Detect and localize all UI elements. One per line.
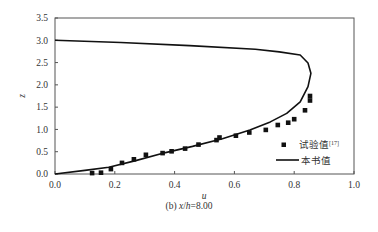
x-tick-label: 0.2 [109,180,121,190]
data-point-marker [196,142,201,147]
data-point-marker [276,123,281,128]
x-tick-label: 1.0 [348,180,360,190]
data-point-marker [183,146,188,151]
data-point-marker [303,108,308,113]
data-point-marker [247,130,252,135]
y-tick-label: 0.5 [36,147,48,157]
data-point-marker [292,117,297,122]
data-point-marker [217,135,222,140]
data-point-marker [286,120,291,125]
data-point-marker [308,98,313,103]
x-tick-label: 0.8 [288,180,300,190]
legend-experimental-ref: [17] [329,140,339,147]
caption-prefix: (b) [165,201,178,211]
legend-label-model: 本书值 [301,155,331,166]
data-point-marker [308,94,313,99]
x-tick-label: 0.4 [169,180,181,190]
figure-caption: (b) x/h=8.00 [0,201,378,211]
y-tick-label: 0.0 [36,169,48,179]
y-tick-label: 2.5 [36,58,48,68]
data-point-marker [109,167,114,172]
data-point-marker [144,153,149,158]
data-point-marker [264,128,269,133]
x-tick-label: 0.0 [49,180,61,190]
data-point-marker [160,151,165,156]
y-axis-label: z [17,94,27,99]
caption-suffix: =8.00 [191,201,213,211]
x-tick-label: 0.6 [228,180,240,190]
x-axis-label: u [202,191,207,201]
data-point-marker [90,171,95,176]
y-tick-label: 1.0 [36,125,48,135]
chart: 0.00.51.01.52.02.53.03.5 0.00.20.40.60.8… [0,0,378,232]
y-tick-label: 3.5 [36,13,48,23]
data-point-marker [234,133,239,138]
y-tick-label: 2.0 [36,80,48,90]
data-point-marker [120,161,125,166]
data-point-marker [169,149,174,154]
legend-experimental-text: 试验值 [299,139,329,150]
data-point-marker [132,157,137,162]
y-tick-label: 3.0 [36,36,48,46]
legend-marker-square [282,143,287,148]
y-tick-label: 1.5 [36,102,48,112]
data-point-marker [99,170,104,175]
